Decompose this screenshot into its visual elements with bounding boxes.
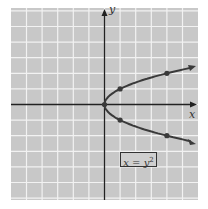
data-point bbox=[102, 102, 107, 107]
y-axis-label: y bbox=[109, 3, 115, 16]
data-point bbox=[118, 118, 123, 123]
equation-text: x = y bbox=[123, 157, 149, 168]
data-point bbox=[164, 133, 169, 138]
plot-area bbox=[0, 0, 208, 209]
equation-label: x = y2 bbox=[120, 152, 157, 167]
data-point bbox=[118, 86, 123, 91]
x-axis-label: x bbox=[189, 108, 195, 121]
data-point bbox=[164, 71, 169, 76]
equation-exponent: 2 bbox=[149, 156, 153, 164]
